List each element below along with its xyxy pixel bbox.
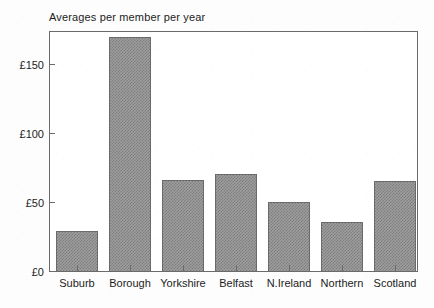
- bar-yorkshire[interactable]: [162, 180, 204, 272]
- bar-scotland[interactable]: [374, 181, 416, 272]
- x-tick-mark-suburb: [77, 265, 78, 272]
- x-tick-mark-northern: [342, 265, 343, 272]
- x-tick-label-nireland: N.Ireland: [267, 277, 312, 289]
- x-tick-mark-belfast: [236, 265, 237, 272]
- y-tick-label-150: £150: [0, 59, 44, 71]
- x-tick-mark-borough: [130, 265, 131, 272]
- x-tick-label-borough: Borough: [109, 277, 151, 289]
- x-tick-mark-yorkshire: [183, 265, 184, 272]
- x-tick-mark-scotland: [395, 265, 396, 272]
- x-tick-label-suburb: Suburb: [59, 277, 94, 289]
- bar-chart-figure: Averages per member per year £0 £50 £100…: [0, 0, 434, 308]
- bar-nireland[interactable]: [268, 202, 310, 272]
- y-tick-label-50: £50: [0, 197, 44, 209]
- chart-title: Averages per member per year: [49, 11, 205, 23]
- y-tick-label-0: £0: [0, 266, 44, 278]
- x-axis-tick-labels: Suburb Borough Yorkshire Belfast N.Irela…: [49, 277, 418, 297]
- y-tick-label-100: £100: [0, 128, 44, 140]
- y-axis-tick-labels: £0 £50 £100 £150: [0, 0, 46, 308]
- x-tick-mark-nireland: [289, 265, 290, 272]
- x-tick-label-scotland: Scotland: [374, 277, 417, 289]
- x-tick-label-belfast: Belfast: [219, 277, 253, 289]
- plot-area: [49, 31, 418, 272]
- x-tick-label-yorkshire: Yorkshire: [160, 277, 205, 289]
- bar-belfast[interactable]: [215, 174, 257, 272]
- x-tick-label-northern: Northern: [321, 277, 364, 289]
- bar-borough[interactable]: [109, 37, 151, 272]
